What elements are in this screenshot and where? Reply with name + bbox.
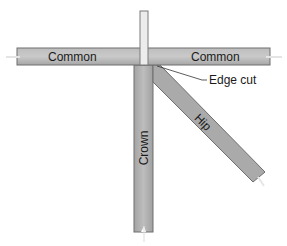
common-left-label: Common <box>48 50 97 64</box>
roof-framing-diagram: Crown Hip Common Common Edge cut <box>0 0 287 246</box>
edge-cut-label: Edge cut <box>209 73 257 87</box>
ridge-post <box>140 11 148 65</box>
common-right-label: Common <box>191 50 240 64</box>
crown-rafter: Crown <box>134 65 153 242</box>
crown-label: Crown <box>137 131 151 166</box>
